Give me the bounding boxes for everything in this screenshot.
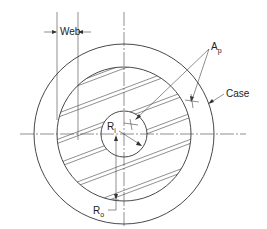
grain-cross-section-diagram: Web Ap Case Ri Ro — [0, 0, 267, 229]
case-leader — [208, 94, 224, 104]
ap-leader-lines — [135, 49, 209, 120]
ro-label: Ro — [93, 205, 104, 218]
ap-marker-outer — [185, 94, 199, 108]
web-label: Web — [60, 26, 81, 37]
ap-label: Ap — [211, 41, 222, 55]
case-label: Case — [226, 88, 250, 99]
